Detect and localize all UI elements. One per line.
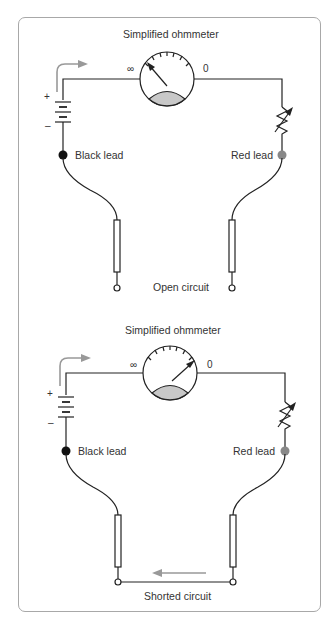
shorted-circuit-caption: Shorted circuit	[144, 591, 211, 602]
scale-zero-label: 0	[203, 64, 209, 74]
ohmmeter-icon	[140, 52, 194, 106]
current-arrow-icon	[57, 64, 80, 92]
scale-infinity-label: ∞	[127, 64, 134, 74]
battery-minus-label: –	[45, 121, 51, 131]
open-circuit-diagram	[55, 52, 293, 291]
meter-title-open: Simplified ohmmeter	[123, 29, 219, 40]
wire-right-top	[194, 79, 282, 107]
black-probe	[114, 220, 120, 272]
battery-plus-label: +	[44, 92, 50, 102]
variable-resistor-icon	[278, 402, 296, 451]
battery-minus-label: –	[48, 418, 54, 428]
red-lead-label: Red lead	[233, 446, 275, 457]
variable-resistor-icon	[275, 107, 293, 155]
circuit-diagram	[0, 0, 334, 625]
red-probe	[229, 220, 235, 272]
wire-left-top	[66, 373, 143, 395]
open-circuit-caption: Open circuit	[153, 282, 209, 293]
red-lead-wire	[232, 158, 282, 220]
red-probe-tip	[229, 285, 235, 291]
current-arrow-icon	[60, 358, 83, 386]
scale-infinity-label: ∞	[130, 360, 137, 370]
red-probe	[230, 515, 236, 567]
scale-zero-label: 0	[207, 360, 213, 370]
black-lead-wire	[63, 158, 117, 220]
shorted-circuit-diagram	[58, 346, 296, 585]
battery-plus-label: +	[47, 389, 53, 399]
battery-icon	[58, 397, 74, 451]
black-lead-label: Black lead	[75, 150, 123, 161]
wire-left-top	[63, 79, 140, 100]
black-probe-tip	[114, 285, 120, 291]
wire-right-top	[197, 373, 285, 402]
red-probe-tip	[230, 579, 236, 585]
black-probe-tip	[115, 579, 121, 585]
black-lead-label: Black lead	[78, 446, 126, 457]
black-lead-wire	[66, 454, 118, 515]
black-probe	[115, 515, 121, 567]
red-lead-label: Red lead	[231, 150, 273, 161]
red-lead-wire	[233, 454, 285, 515]
ohmmeter-icon	[143, 346, 197, 400]
meter-title-shorted: Simplified ohmmeter	[125, 325, 221, 336]
battery-icon	[55, 102, 71, 155]
